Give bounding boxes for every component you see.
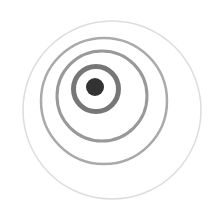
center-dot [86,78,104,96]
ripple-diagram [0,0,223,208]
ring-4 [23,21,201,199]
ring-2 [57,51,147,141]
